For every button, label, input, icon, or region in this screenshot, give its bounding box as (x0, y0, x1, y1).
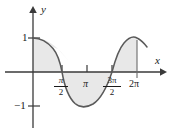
figure-canvas: y x 1 −1 π 2 π 3π 2 2π (0, 0, 175, 136)
y-tick-label-1: 1 (22, 32, 28, 43)
x-tick-label-3pi-over-2: 3π 2 (103, 76, 121, 97)
x-tick-label-pi-over-2: π 2 (54, 76, 68, 97)
x-tick-label-3pi-over-2-numerator: 3π (103, 76, 121, 85)
x-tick-label-3pi-over-2-denominator: 2 (103, 87, 121, 97)
y-axis-arrowhead (29, 6, 37, 13)
y-axis-label: y (41, 4, 46, 15)
x-tick-label-pi-over-2-denominator: 2 (54, 87, 68, 97)
x-axis-arrowhead (160, 68, 167, 76)
y-tick-label-minus-1: −1 (14, 100, 26, 111)
x-tick-label-2pi: 2π (129, 79, 139, 89)
x-tick-label-pi-over-2-numerator: π (54, 76, 68, 85)
cosine-plot-svg (0, 0, 175, 136)
x-axis-label: x (155, 55, 160, 66)
x-tick-label-pi: π (83, 79, 88, 89)
